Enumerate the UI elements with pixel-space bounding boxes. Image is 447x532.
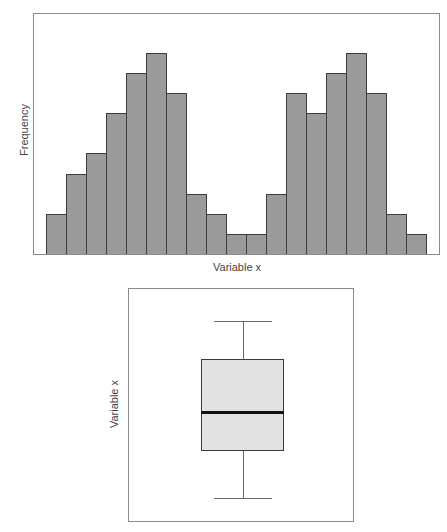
histogram-bar [286,93,307,254]
histogram-plot-area [33,13,440,255]
histogram-bar [126,73,147,254]
boxplot-y-axis-label: Variable x [108,374,120,434]
histogram-bar [346,53,367,254]
histogram-bar [306,113,327,254]
interquartile-box [201,359,284,451]
histogram-bar [66,174,87,254]
histogram-bar [206,214,227,254]
histogram-x-axis-label: Variable x [213,261,261,273]
histogram-bar [266,194,287,254]
lower-whisker-cap [214,498,272,499]
median-line [201,411,284,414]
histogram-y-axis-label: Frequency [18,100,30,160]
histogram-bar [146,53,167,254]
histogram-bar [186,194,207,254]
histogram-bar [386,214,407,254]
histogram-bar [106,113,127,254]
histogram-bar [46,214,67,254]
lower-whisker [243,451,244,498]
histogram-bar [246,234,267,254]
histogram-bar [406,234,427,254]
histogram-bar [226,234,247,254]
boxplot-plot-area [128,288,354,522]
histogram-bar [166,93,187,254]
upper-whisker-cap [214,321,272,322]
histogram-bar [366,93,387,254]
upper-whisker [243,321,244,359]
histogram-bar [326,73,347,254]
histogram-bar [86,153,107,254]
